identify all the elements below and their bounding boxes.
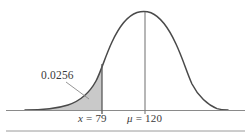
mean-axis-label: μ = 120: [127, 112, 162, 124]
mu-value-text: = 120: [133, 112, 162, 124]
normal-distribution-figure: 0.0256 x = 79 μ = 120: [0, 0, 251, 138]
bell-curve: [25, 12, 228, 110]
x-value-axis-label: x = 79: [78, 112, 107, 124]
shaded-area-value-label: 0.0256: [41, 69, 74, 81]
x-value-text: = 79: [83, 112, 107, 124]
annotation-leader-line: [66, 82, 89, 99]
distribution-chart-svg: [0, 0, 251, 138]
